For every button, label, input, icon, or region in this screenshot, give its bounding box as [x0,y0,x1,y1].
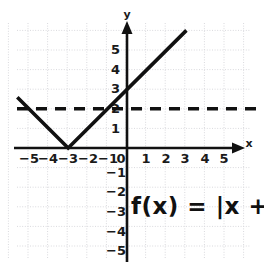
x-tick-5: 5 [219,151,228,166]
y-tick--5: −5 [106,243,126,258]
x-tick--4: −4 [38,151,58,166]
x-tick-2: 2 [161,151,170,166]
graph-figure: x y −5 −4 −3 −2 −1 0 1 2 3 4 5 5 4 3 2 1… [0,0,264,271]
x-tick-1: 1 [141,151,150,166]
x-tick--5: −5 [19,151,39,166]
y-tick--1: −1 [106,165,126,180]
x-tick-4: 4 [200,151,209,166]
y-tick-4: 4 [111,62,120,77]
function-equation-annotation: f(x) = |x + 3| [131,193,264,220]
coordinate-plane: x y −5 −4 −3 −2 −1 0 1 2 3 4 5 5 4 3 2 1… [0,0,264,271]
x-tick-0: 0 [116,151,125,166]
x-tick--2: −2 [78,151,98,166]
y-axis-label: y [123,8,130,21]
y-tick--3: −3 [106,204,126,219]
x-tick--1: −1 [98,151,118,166]
x-tick-3: 3 [180,151,189,166]
y-tick--4: −4 [106,224,126,239]
y-tick--2: −2 [106,184,126,199]
y-tick-5: 5 [111,42,120,57]
y-tick-1: 1 [111,121,120,136]
x-tick--3: −3 [58,151,78,166]
x-axis-label: x [245,137,252,150]
y-tick-3: 3 [111,81,120,96]
